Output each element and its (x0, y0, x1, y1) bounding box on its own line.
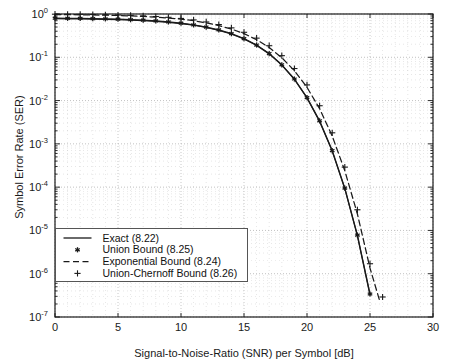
y-tick-label: 10-7 (29, 309, 48, 323)
x-axis-label: Signal-to-Noise-Ratio (SNR) per Symbol [… (55, 343, 433, 361)
y-tick-label: 10-2 (29, 93, 48, 107)
x-tick-label: 25 (364, 321, 376, 333)
y-tick-label: 100 (32, 6, 48, 20)
y-axis-label: Symbol Error Rate (SER) (9, 57, 27, 257)
x-tick-label: 0 (52, 321, 58, 333)
x-tick-label: 10 (175, 321, 187, 333)
x-tick-label: 15 (238, 321, 250, 333)
ser-vs-snr-chart: 05101520253010010-110-210-310-410-510-61… (0, 0, 450, 363)
y-tick-label: 10-5 (29, 222, 48, 236)
legend-item-label: Exact (8.22) (103, 232, 160, 244)
x-tick-label: 30 (427, 321, 439, 333)
x-tick-label: 20 (301, 321, 313, 333)
legend: Exact (8.22)Union Bound (8.25)Exponentia… (56, 229, 248, 282)
y-tick-label: 10-6 (29, 266, 48, 280)
legend-item-label: Union Bound (8.25) (103, 243, 194, 255)
y-tick-label: 10-3 (29, 136, 48, 150)
tick-labels: 05101520253010010-110-210-310-410-510-61… (29, 6, 439, 333)
y-tick-label: 10-1 (29, 49, 48, 63)
legend-item-label: Union-Chernoff Bound (8.26) (103, 267, 238, 279)
x-axis-label-text: Signal-to-Noise-Ratio (SNR) per Symbol [… (134, 347, 353, 359)
x-tick-label: 5 (115, 321, 121, 333)
y-axis-label-text: Symbol Error Rate (SER) (13, 95, 25, 218)
legend-item-label: Exponential Bound (8.24) (103, 255, 222, 267)
figure-container: 05101520253010010-110-210-310-410-510-61… (0, 0, 450, 363)
y-tick-label: 10-4 (29, 179, 48, 193)
